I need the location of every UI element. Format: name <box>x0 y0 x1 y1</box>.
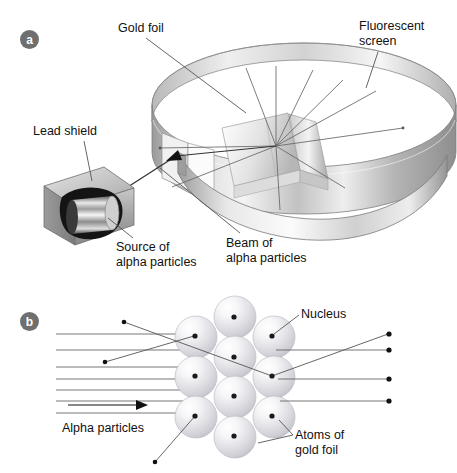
lead-shield-box <box>44 167 134 245</box>
label-gold-foil: Gold foil <box>118 21 164 36</box>
label-nucleus: Nucleus <box>301 307 346 322</box>
label-lead-shield: Lead shield <box>33 124 97 139</box>
alpha-source-cylinder <box>66 196 119 234</box>
label-beam-of-alpha-particles: Beam of alpha particles <box>226 236 307 266</box>
label-source-of-alpha-particles: Source of alpha particles <box>116 240 197 270</box>
panel-badge-b: b <box>20 312 39 331</box>
label-alpha-particles: Alpha particles <box>62 421 144 436</box>
rutherford-experiment-figure: a Gold foil Fluorescent screen Lead shie… <box>0 0 457 473</box>
label-atoms-of-gold-foil: Atoms of gold foil <box>295 428 344 458</box>
panel-badge-a: a <box>20 30 39 49</box>
label-fluorescent-screen: Fluorescent screen <box>359 19 424 49</box>
